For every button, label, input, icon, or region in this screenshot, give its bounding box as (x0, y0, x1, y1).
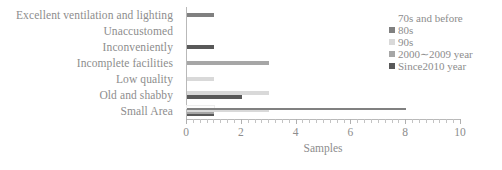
x-axis-major-tick (296, 119, 297, 124)
bar-row (187, 71, 460, 87)
category-label: Excellent ventilation and lighting (16, 7, 178, 23)
x-axis-major-tick (241, 119, 242, 124)
x-axis-minor-tick (419, 119, 420, 123)
x-axis-minor-tick (392, 119, 393, 123)
x-axis-minor-tick (446, 119, 447, 123)
legend-item[interactable]: 80s (389, 24, 473, 36)
category-label: Low quality (116, 71, 178, 87)
x-axis-minor-tick (323, 119, 324, 123)
legend-label: Since2010 year (398, 60, 466, 72)
x-axis-minor-tick (207, 119, 208, 123)
x-axis-minor-tick (261, 119, 262, 123)
x-axis-major-tick (460, 119, 461, 124)
legend-label: 2000∼2009 year (398, 48, 473, 60)
x-axis-minor-tick (412, 119, 413, 123)
legend-swatch-icon (389, 63, 395, 69)
legend-swatch-icon (389, 27, 395, 33)
x-axis-minor-tick (220, 119, 221, 123)
x-axis-minor-tick (398, 119, 399, 123)
legend-item[interactable]: 2000∼2009 year (389, 48, 473, 60)
legend-swatch-icon (389, 39, 395, 45)
bar-segment (187, 95, 242, 99)
x-axis-minor-tick (364, 119, 365, 123)
x-axis-major-tick (186, 119, 187, 124)
legend-item[interactable]: 70s and before (389, 12, 473, 24)
x-axis-tick-label: 10 (454, 126, 466, 139)
x-axis-minor-tick (302, 119, 303, 123)
x-axis-minor-tick (344, 119, 345, 123)
legend-label: 90s (398, 36, 413, 48)
category-axis-labels: Excellent ventilation and lightingUnaccu… (0, 7, 178, 119)
x-axis-minor-tick (200, 119, 201, 123)
x-axis-minor-tick (357, 119, 358, 123)
x-axis-minor-tick (275, 119, 276, 123)
bar-segment (187, 77, 214, 81)
x-axis-minor-tick (234, 119, 235, 123)
category-label: Inconveniently (103, 39, 178, 55)
x-axis-minor-tick (330, 119, 331, 123)
x-axis-minor-tick (255, 119, 256, 123)
x-axis-minor-tick (289, 119, 290, 123)
bar-segment (187, 13, 214, 17)
chart-legend: 70s and before80s90s2000∼2009 yearSince2… (389, 12, 473, 72)
legend-label: 80s (398, 24, 413, 36)
x-axis-minor-tick (385, 119, 386, 123)
x-axis-minor-tick (433, 119, 434, 123)
x-axis-tick-label: 4 (293, 126, 299, 139)
category-label: Small Area (121, 103, 178, 119)
category-label: Unaccustomed (103, 23, 178, 39)
x-axis-tick-label: 2 (238, 126, 244, 139)
x-axis-minor-tick (309, 119, 310, 123)
x-axis-title: Samples (186, 142, 460, 154)
legend-item[interactable]: Since2010 year (389, 60, 473, 72)
x-axis-minor-tick (316, 119, 317, 123)
x-axis-minor-tick (439, 119, 440, 123)
bar-segment (187, 114, 214, 116)
x-axis-major-tick (405, 119, 406, 124)
x-axis-minor-tick (426, 119, 427, 123)
x-axis-minor-tick (227, 119, 228, 123)
x-axis-major-tick (350, 119, 351, 124)
category-label: Old and shabby (99, 87, 178, 103)
x-axis-minor-tick (193, 119, 194, 123)
x-axis-minor-tick (268, 119, 269, 123)
bar-row (187, 103, 460, 119)
x-axis-tick-label: 0 (183, 126, 189, 139)
x-axis-minor-tick (213, 119, 214, 123)
legend-item[interactable]: 90s (389, 36, 473, 48)
x-axis-minor-tick (248, 119, 249, 123)
x-axis-minor-tick (282, 119, 283, 123)
legend-label: 70s and before (398, 12, 463, 24)
bar-chart: Excellent ventilation and lightingUnaccu… (0, 0, 502, 170)
bar-segment (187, 61, 269, 65)
x-axis-minor-tick (378, 119, 379, 123)
bar-segment (187, 45, 214, 49)
x-axis-tick-label: 8 (402, 126, 408, 139)
x-axis-tick-label: 6 (348, 126, 354, 139)
x-axis-minor-tick (371, 119, 372, 123)
bar-row (187, 87, 460, 103)
x-axis-minor-tick (337, 119, 338, 123)
legend-swatch-icon (389, 51, 395, 57)
x-axis-minor-tick (453, 119, 454, 123)
category-label: Incomplete facilities (77, 55, 178, 71)
